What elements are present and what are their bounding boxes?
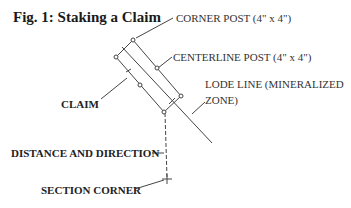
corner-post-marker — [114, 55, 118, 59]
lode-line-label-line1: LODE LINE (MINERALIZED — [205, 79, 344, 90]
corner-post-label: CORNER POST (4" x 4") — [176, 13, 291, 24]
centerline-post-leader — [158, 57, 172, 68]
corner-post-leader — [136, 18, 173, 38]
claim-leader — [101, 78, 127, 99]
corner-post-marker — [179, 94, 183, 98]
corner-post-marker — [131, 38, 135, 42]
section-corner-label: SECTION CORNER — [41, 185, 141, 196]
centerline-post-marker — [155, 66, 159, 70]
centerline-post-marker — [138, 83, 142, 87]
lode-line-leader — [192, 102, 205, 114]
centerline-post-label: CENTERLINE POST (4" x 4") — [173, 52, 311, 63]
claim-label: CLAIM — [61, 99, 99, 110]
lode-line-label-line2: ZONE) — [205, 95, 238, 106]
corner-post-marker — [162, 110, 166, 114]
claim-diagram — [0, 0, 351, 208]
distance-direction-line — [165, 113, 167, 178]
distance-direction-label: DISTANCE AND DIRECTION — [11, 148, 159, 159]
